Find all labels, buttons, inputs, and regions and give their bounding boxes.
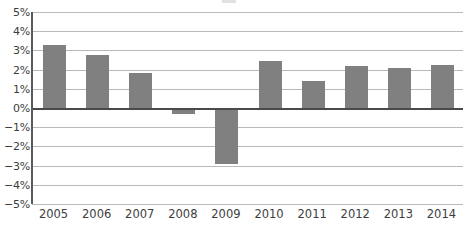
y-axis-tick-label: 1% <box>0 84 30 95</box>
y-axis-tick-label: 5% <box>0 7 30 18</box>
y-axis-tick-labels: 5%4%3%2%1%0%−1%−2%−3%−4%−5% <box>0 0 30 226</box>
bar-chart: 5%4%3%2%1%0%−1%−2%−3%−4%−5% 200520062007… <box>0 0 469 226</box>
y-axis-tick-label: −1% <box>0 122 30 133</box>
y-axis-tick-label: 2% <box>0 65 30 76</box>
x-axis-tick-label: 2009 <box>204 208 248 220</box>
y-axis-tick-label: −3% <box>0 161 30 172</box>
y-axis-tick-label: −4% <box>0 180 30 191</box>
y-axis-tick-label: 0% <box>0 103 30 114</box>
x-axis-tick-label: 2012 <box>333 208 377 220</box>
y-axis-tick-label: 4% <box>0 26 30 37</box>
x-axis-tick-labels: 2005200620072008200920102011201220132014 <box>32 0 463 226</box>
x-axis-tick-label: 2011 <box>290 208 334 220</box>
x-axis-tick-label: 2013 <box>376 208 420 220</box>
x-axis-tick-label: 2006 <box>75 208 119 220</box>
y-axis-tick-label: 3% <box>0 45 30 56</box>
y-axis-tick-label: −2% <box>0 141 30 152</box>
y-axis-tick-label: −5% <box>0 199 30 210</box>
x-axis-tick-label: 2014 <box>419 208 463 220</box>
x-axis-tick-label: 2008 <box>161 208 205 220</box>
x-axis-tick-label: 2010 <box>247 208 291 220</box>
x-axis-tick-label: 2005 <box>32 208 76 220</box>
x-axis-tick-label: 2007 <box>118 208 162 220</box>
